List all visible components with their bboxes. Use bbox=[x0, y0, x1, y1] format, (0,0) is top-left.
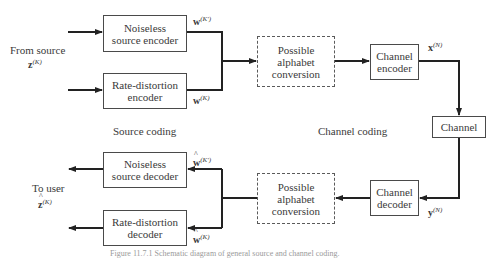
w-hat-superscript: (K') bbox=[200, 156, 211, 164]
source-coding-label: Source coding bbox=[113, 125, 176, 137]
w-superscript: (K') bbox=[200, 15, 211, 23]
rd-decoder-label: Rate-distortion decoder bbox=[110, 216, 180, 240]
channel-box: Channel bbox=[432, 116, 486, 138]
noiseless-decoder-label: Noiseless source decoder bbox=[110, 158, 180, 182]
noiseless-encoder-label: Noiseless source encoder bbox=[110, 22, 180, 46]
channel-decoder-label: Channel decoder bbox=[371, 186, 418, 210]
to-user-label: To user bbox=[32, 182, 65, 194]
rate-distortion-encoder-box: Rate-distortion encoder bbox=[103, 73, 187, 109]
connector-lines bbox=[0, 0, 489, 260]
noiseless-source-encoder-box: Noiseless source encoder bbox=[103, 15, 187, 52]
z-hat-symbol: z bbox=[38, 199, 42, 210]
channel-coding-label: Channel coding bbox=[318, 125, 387, 137]
y-n-label: y(N) bbox=[428, 206, 442, 218]
conversion-top-label: Possible alphabet conversion bbox=[262, 44, 330, 80]
from-source-label: From source bbox=[10, 44, 65, 56]
w-kprime-label: w(K') bbox=[193, 15, 211, 27]
source-symbol: z(K) bbox=[28, 58, 42, 70]
channel-label: Channel bbox=[441, 121, 478, 133]
conversion-bottom-label: Possible alphabet conversion bbox=[262, 181, 330, 217]
w-superscript: (K) bbox=[200, 94, 209, 102]
w-hat-kprime-label: w(K') bbox=[193, 156, 211, 168]
x-superscript: (N) bbox=[433, 41, 442, 49]
channel-encoder-box: Channel encoder bbox=[370, 44, 419, 80]
noiseless-source-decoder-box: Noiseless source decoder bbox=[103, 152, 187, 188]
w-hat-symbol: w bbox=[193, 234, 200, 245]
alphabet-conversion-bottom-box: Possible alphabet conversion bbox=[257, 173, 335, 224]
source-channel-coding-diagram: From source z(K) Noiseless source encode… bbox=[0, 0, 489, 260]
w-k-label: w(K) bbox=[193, 94, 210, 106]
x-n-label: x(N) bbox=[428, 41, 442, 53]
z-superscript: (K) bbox=[32, 58, 41, 66]
rate-distortion-decoder-box: Rate-distortion decoder bbox=[103, 210, 187, 246]
w-hat-k-label: w(K) bbox=[193, 233, 210, 245]
rd-encoder-label: Rate-distortion encoder bbox=[110, 79, 180, 103]
channel-encoder-label: Channel encoder bbox=[371, 50, 418, 74]
figure-caption: Figure 11.7.1 Schematic diagram of gener… bbox=[110, 249, 339, 258]
z-hat-label: z(K) bbox=[38, 198, 52, 210]
w-hat-superscript: (K) bbox=[200, 233, 209, 241]
w-hat-symbol: w bbox=[193, 157, 200, 168]
alphabet-conversion-top-box: Possible alphabet conversion bbox=[257, 36, 335, 87]
channel-decoder-box: Channel decoder bbox=[370, 180, 419, 216]
z-hat-superscript: (K) bbox=[42, 198, 51, 206]
y-superscript: (N) bbox=[433, 206, 442, 214]
